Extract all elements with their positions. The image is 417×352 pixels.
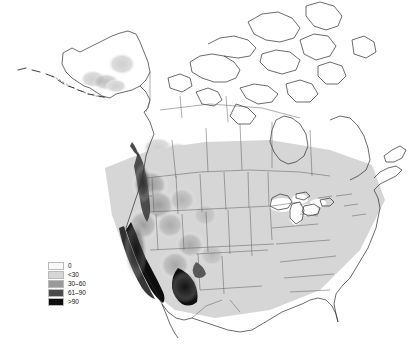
legend-item: >90 [48,297,100,306]
legend-swatch-0 [48,262,64,270]
legend-label-0: 0 [68,262,72,270]
legend-item: <30 [48,270,100,279]
legend-label-1: <30 [68,271,79,279]
map-figure: 0 <30 30–60 61–90 >90 [0,0,417,352]
legend-swatch-4 [48,298,64,306]
legend-label-3: 61–90 [68,289,86,297]
legend-item: 0 [48,261,100,270]
legend-label-4: >90 [68,298,79,306]
legend-swatch-3 [48,289,64,297]
legend-swatch-2 [48,280,64,288]
legend-item: 61–90 [48,288,100,297]
legend-label-2: 30–60 [68,280,86,288]
legend-item: 30–60 [48,279,100,288]
value-class-legend: 0 <30 30–60 61–90 >90 [48,261,100,306]
legend-swatch-1 [48,271,64,279]
